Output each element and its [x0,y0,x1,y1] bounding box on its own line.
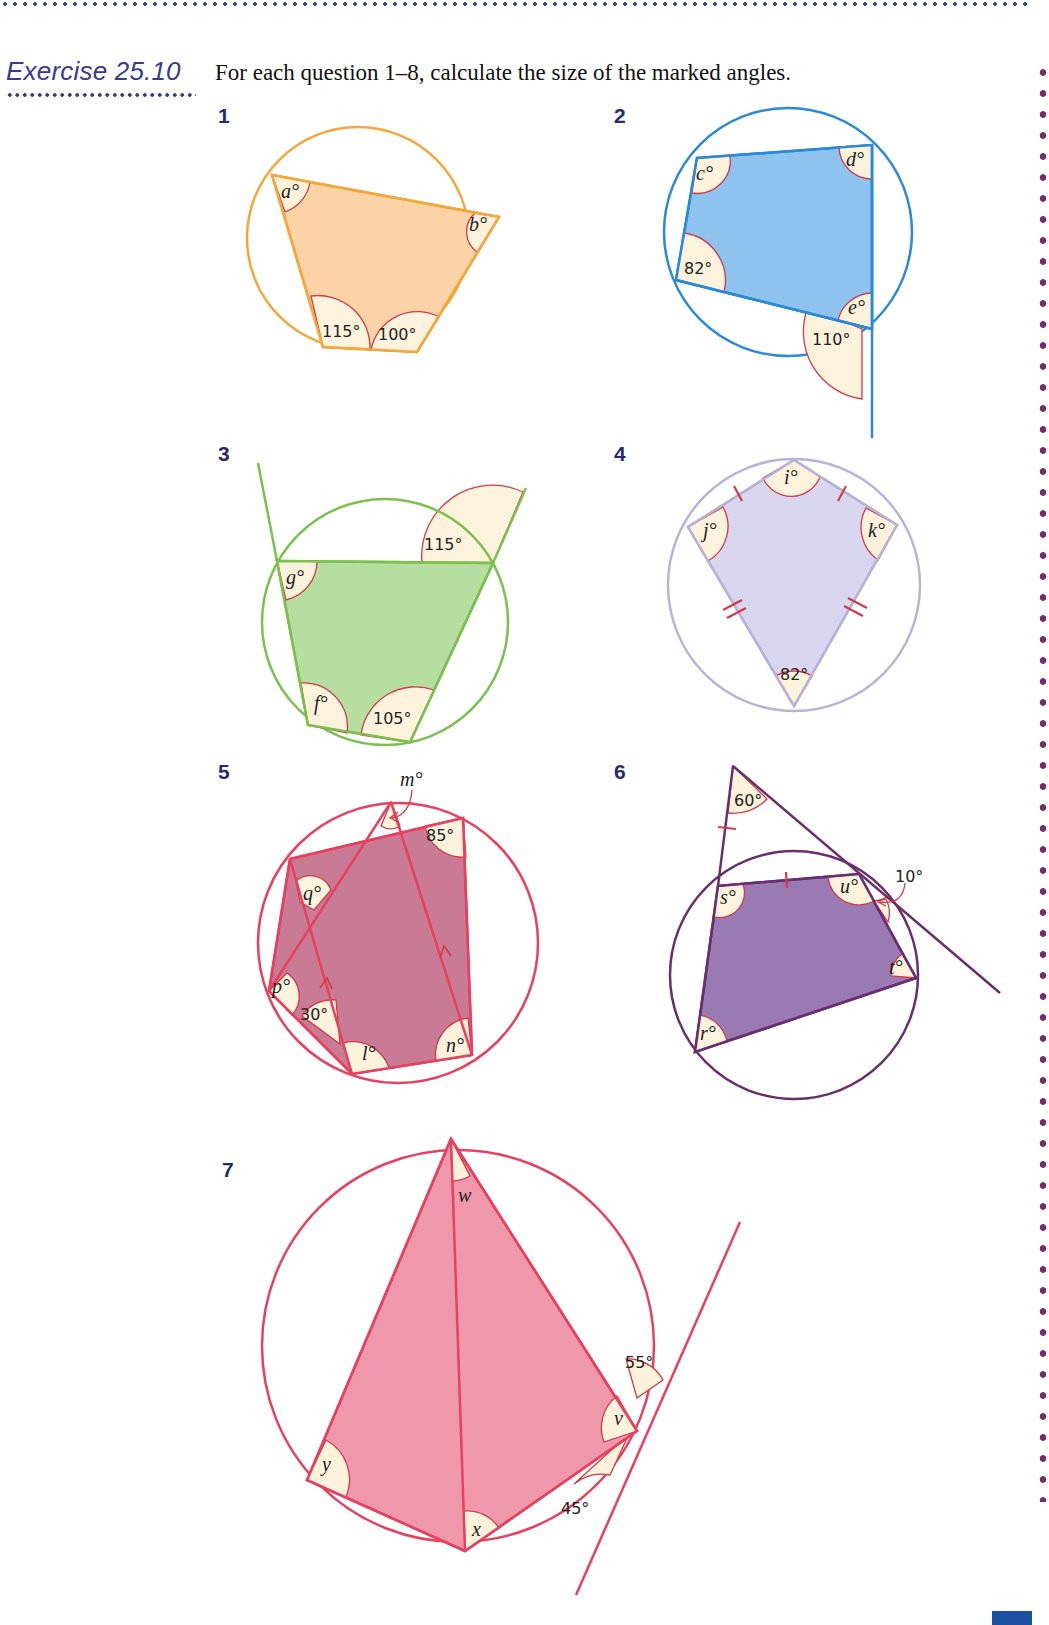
equal-side-mark [786,872,787,888]
angle-label-100: 100° [378,325,417,344]
question-1-diagram: a° b° 115° 100° [247,127,499,352]
angle-label-e: e° [848,296,865,318]
angle-label-45: 45° [561,1499,589,1518]
angle-label-y: y [320,1453,331,1476]
angle-label-82: 82° [684,259,712,278]
question-5-diagram: m° 85° q° p° 30° l° n° [258,768,538,1083]
angle-label-d: d° [846,148,864,170]
angle-label-115: 115° [322,322,361,341]
question-2-diagram: c° d° 82° e° 110° [664,108,912,438]
angle-label-u: u° [840,875,858,897]
page-number-tab [992,1611,1032,1625]
angle-label-j: j° [700,519,717,542]
angle-label-q: q° [303,882,321,905]
angle-label-l: l° [362,1042,376,1064]
equal-side-mark [718,827,736,829]
question-4-diagram: i° j° k° 82° [668,459,920,711]
angle-label-60: 60° [734,791,762,810]
angle-label-30: 30° [300,1005,328,1024]
angle-label-i: i° [784,466,798,488]
angle-label-n: n° [446,1034,464,1056]
angle-label-a: a° [281,180,299,202]
angle-label-t: t° [889,956,903,978]
angle-label-f: f° [314,692,328,715]
exercise-diagrams: a° b° 115° 100° c° d° 82° e° 110° g° f° … [0,0,1049,1625]
angle-label-m: m° [400,768,422,790]
angle-label-10: 10° [895,867,923,886]
angle-label-105: 105° [373,709,412,728]
angle-label-c: c° [696,162,713,184]
angle-label-115: 115° [424,535,463,554]
angle-label-s: s° [720,886,736,908]
angle-label-w: w [458,1184,472,1206]
angle-label-v: v [614,1407,623,1429]
angle-label-110: 110° [812,330,851,349]
question-6-diagram: 60° s° u° 10° t° r° [670,766,1000,1099]
angle-label-x: x [471,1518,481,1540]
angle-label-g: g° [286,566,304,589]
angle-label-k: k° [868,519,885,541]
question-7-diagram: w 55° v y 45° x [262,1139,740,1595]
question-3-diagram: g° f° 115° 105° [258,463,526,745]
angle-label-r: r° [700,1022,716,1044]
angle-label-82: 82° [780,665,808,684]
angle-label-p: p° [270,975,290,998]
angle-label-b: b° [469,213,487,235]
angle-label-55: 55° [625,1353,653,1372]
angle-label-85: 85° [426,826,454,845]
